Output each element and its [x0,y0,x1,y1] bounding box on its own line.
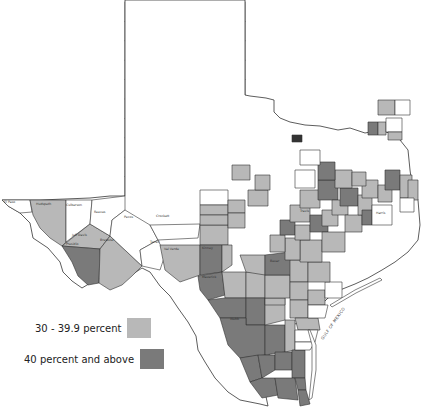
county-mills [255,175,270,190]
label-maverick: Maverick [202,275,216,279]
county-coleman [232,165,250,180]
county-madison [352,172,366,186]
county-cameron [298,390,310,406]
label-brewster: Brewster [100,238,115,242]
county-bell [295,170,315,188]
county-schleicher [200,205,228,215]
label-kinney: Kinney [202,246,213,250]
label-webb: Webb [230,317,239,321]
county-la-salle [246,298,265,325]
county-brooks [275,352,292,370]
county-cass [386,118,402,132]
county-titus [368,122,378,135]
county-bee [290,300,308,318]
county-caldwell [295,225,310,240]
county-jasper [408,180,418,200]
county-morris [378,122,386,135]
county-victoria [325,282,342,298]
county-karnes [290,282,308,300]
label-jeff-davis: Jeff Davis [71,233,87,237]
county-fayette [322,232,345,252]
county-mclennan [300,150,320,165]
county-crockett [150,224,200,240]
county-guadalupe [285,238,300,260]
county-falls [318,162,335,180]
label-val-verde: Val Verde [164,247,179,251]
county-goliad [308,290,325,305]
county-zavala [222,272,246,298]
county-harris [372,205,392,225]
county-refugio [308,305,328,318]
label-presidio: Presidio [66,242,79,246]
county-marion [388,132,402,140]
label-hudspeth: Hudspeth [36,202,51,206]
county-kenedy [292,350,305,378]
county-williamson [300,190,320,208]
label-reeves: Reeves [94,210,106,214]
county-polk [385,170,400,190]
county-gonzales [300,240,322,262]
county-robertson [335,170,352,188]
county-hardin [400,198,414,212]
county-atascosa [265,275,290,298]
county-menard [228,200,245,213]
label-pecos: Pecos [124,215,133,219]
county-tarrant-dallas-dark [292,135,302,142]
county-duval [265,325,285,355]
county-bowie [395,100,410,115]
county-red-river [378,100,395,115]
county-waller [362,210,372,225]
county-san-saba [248,190,268,206]
county-nueces [295,330,318,342]
county-edwards [200,225,228,245]
label-travis: Travis [299,209,310,213]
county-san-patricio [295,318,320,330]
county-tom-green [200,190,228,205]
county-dewitt [308,262,330,282]
county-brazos [340,188,358,206]
county-kimble [228,213,245,228]
county-comal [270,235,285,252]
county-wilson [290,260,308,282]
county-jim-wells [285,320,295,352]
label-crockett: Crockett [156,214,170,218]
county-sutton [200,215,228,225]
texas-county-map: DallamShermanHansfordOchiltreeLipscombHa… [0,0,431,416]
label-el-paso: El Paso [4,200,15,204]
label-bexar: Bexar [270,259,280,263]
label-terrell: Terrell [149,240,160,244]
county-hidalgo [275,378,298,400]
county-washington [345,215,362,232]
county-frio [246,272,265,298]
label-harris: Harris [376,211,386,215]
label-culberson: Culberson [66,203,82,207]
county-mcmullen [265,298,285,305]
